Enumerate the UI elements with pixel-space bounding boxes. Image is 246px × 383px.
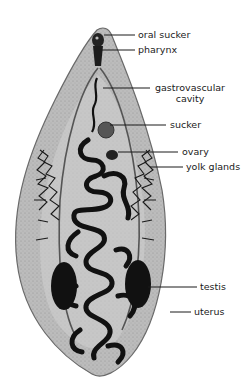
label-gastrovascular-line1: gastrovascular <box>150 82 230 93</box>
label-testis: testis <box>200 281 226 292</box>
ovary-shape <box>106 150 118 160</box>
label-gastrovascular-cavity: gastrovascular cavity <box>150 82 230 104</box>
label-pharynx: pharynx <box>138 44 177 55</box>
label-gastrovascular-line2: cavity <box>150 93 230 104</box>
label-sucker: sucker <box>170 119 201 130</box>
label-ovary: ovary <box>182 146 209 157</box>
fluke-diagram <box>0 0 246 383</box>
ventral-sucker-shape <box>98 122 114 138</box>
label-oral-sucker: oral sucker <box>138 29 190 40</box>
label-uterus: uterus <box>194 306 224 317</box>
oral-sucker-shape <box>92 33 104 47</box>
label-yolk-glands: yolk glands <box>186 161 240 172</box>
